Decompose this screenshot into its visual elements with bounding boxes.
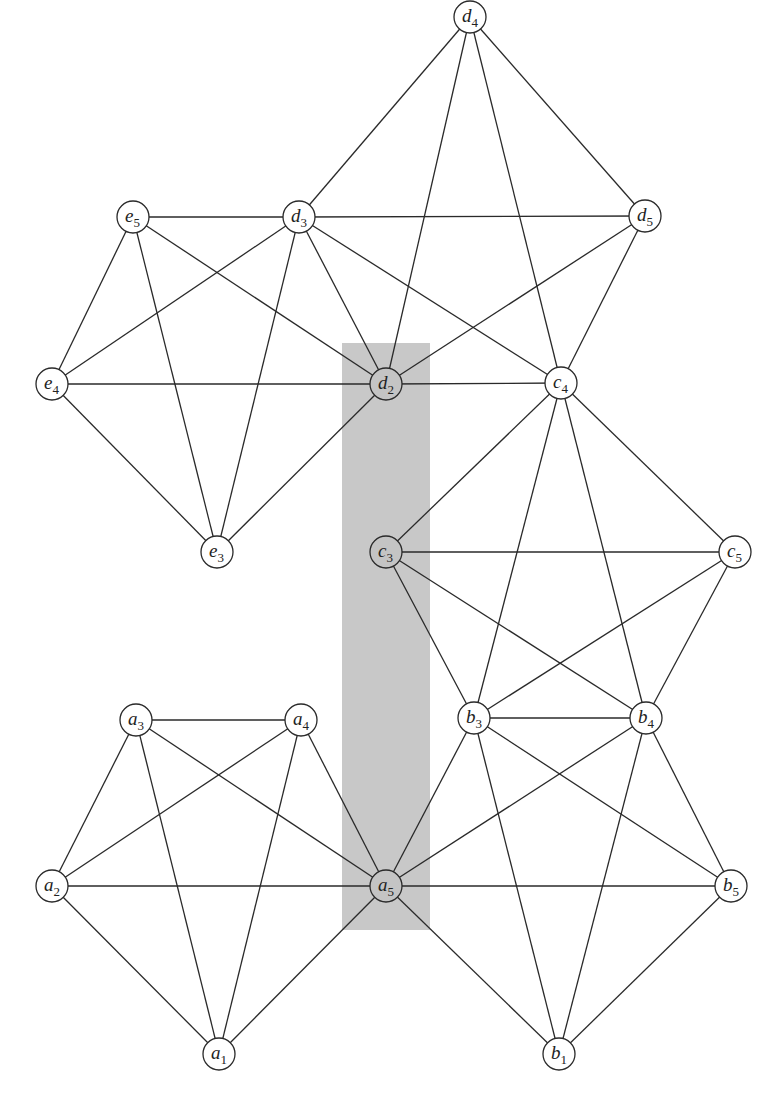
- node-b5: b5: [715, 870, 747, 902]
- node-c4: c4: [545, 367, 577, 399]
- edge-b1-b5: [559, 886, 731, 1054]
- edge-a2-a3: [52, 720, 136, 886]
- edge-c4-d4: [470, 17, 561, 383]
- edge-a1-a3: [136, 720, 219, 1054]
- edge-a1-a5: [219, 886, 386, 1054]
- edge-d3-e4: [52, 217, 299, 384]
- node-b1: b1: [543, 1038, 575, 1070]
- edge-b4-c5: [646, 552, 735, 718]
- highlight-column: [342, 343, 430, 930]
- edge-b3-b5: [474, 718, 731, 886]
- edge-d4-d5: [470, 17, 645, 216]
- edge-c4-d5: [561, 216, 645, 383]
- node-d3: d3: [283, 201, 315, 233]
- node-c3: c3: [370, 536, 402, 568]
- edge-d2-d4: [386, 17, 470, 384]
- edge-a5-b1: [386, 886, 559, 1054]
- edge-d3-d5: [299, 216, 645, 217]
- edge-e4-e5: [52, 217, 133, 384]
- edge-a1-a2: [52, 886, 219, 1054]
- node-a4: a4: [285, 704, 317, 736]
- node-e5: e5: [117, 201, 149, 233]
- edge-d3-d4: [299, 17, 470, 217]
- node-a3: a3: [120, 704, 152, 736]
- edge-c4-c5: [561, 383, 735, 552]
- edge-b3-c5: [474, 552, 735, 718]
- edge-b4-c4: [561, 383, 646, 718]
- edge-e3-e4: [52, 384, 217, 552]
- node-c5: c5: [719, 536, 751, 568]
- node-a1: a1: [203, 1038, 235, 1070]
- edge-d2-d5: [386, 216, 645, 384]
- node-b3: b3: [458, 702, 490, 734]
- edge-b3-c4: [474, 383, 561, 718]
- edge-a1-a4: [219, 720, 301, 1054]
- edge-b4-b5: [646, 718, 731, 886]
- node-e4: e4: [36, 368, 68, 400]
- node-e3: e3: [201, 536, 233, 568]
- edge-d2-e5: [133, 217, 386, 384]
- node-d2: d2: [370, 368, 402, 400]
- node-b4: b4: [630, 702, 662, 734]
- node-d5: d5: [629, 200, 661, 232]
- node-a2: a2: [36, 870, 68, 902]
- node-a5: a5: [370, 870, 402, 902]
- graph-diagram: d4e5d3d5e4d2c4e3c3c5a3a4b3b4a2a5b5a1b1: [0, 0, 782, 1099]
- node-d4: d4: [454, 1, 486, 33]
- edge-a2-a4: [52, 720, 301, 886]
